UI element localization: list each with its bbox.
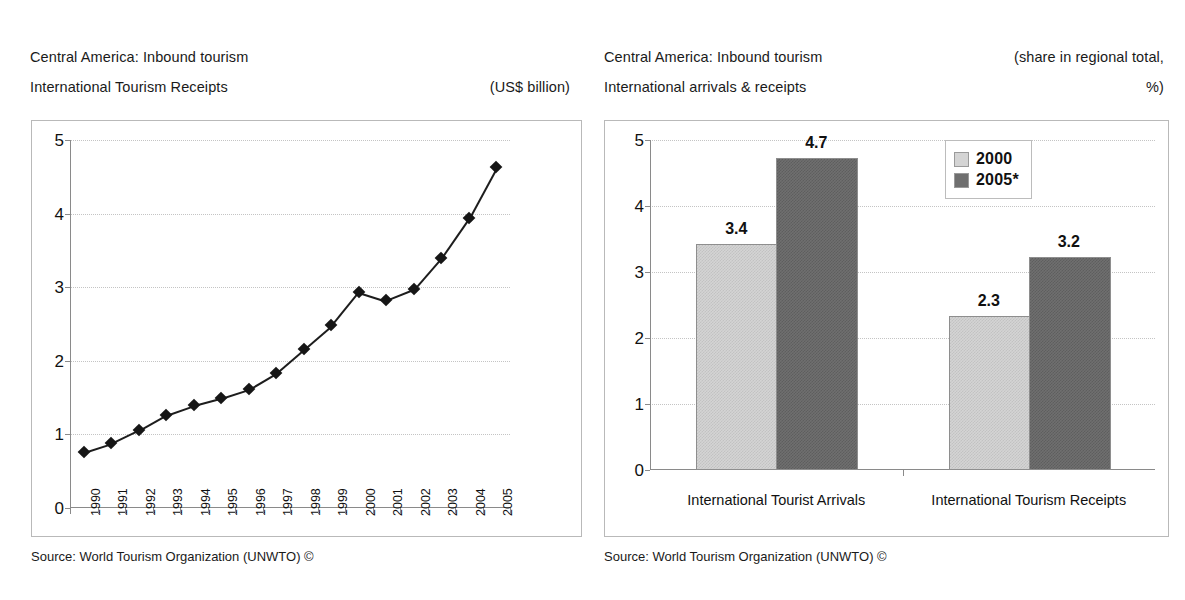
data-point-marker bbox=[380, 294, 393, 307]
bar-value-label: 4.7 bbox=[805, 134, 827, 152]
x-axis-year-label: 1998 bbox=[309, 488, 323, 516]
y-axis-label: 1 bbox=[55, 426, 64, 443]
data-point-marker bbox=[77, 446, 90, 459]
bar-value-label: 2.3 bbox=[978, 292, 1000, 310]
data-point-marker bbox=[490, 161, 503, 174]
left-chart-source: Source: World Tourism Organization (UNWT… bbox=[31, 549, 314, 564]
x-axis-year-label: 2005 bbox=[501, 488, 515, 516]
line-segment bbox=[441, 218, 470, 259]
y-axis-label: 1 bbox=[635, 396, 644, 413]
bar-2005 bbox=[1029, 257, 1111, 470]
x-axis-tick bbox=[903, 470, 904, 476]
bar-value-label: 3.4 bbox=[725, 220, 747, 238]
x-axis-tick bbox=[70, 508, 71, 514]
x-axis-tick bbox=[510, 508, 511, 514]
left-chart-title-line1: Central America: Inbound tourism bbox=[30, 42, 248, 72]
x-axis-tick bbox=[318, 508, 319, 514]
gridline bbox=[650, 206, 1155, 207]
x-axis-category-label: International Tourism Receipts bbox=[931, 492, 1126, 508]
x-axis-tick bbox=[455, 508, 456, 514]
y-axis-label: 5 bbox=[635, 132, 644, 149]
bar-value-label: 3.2 bbox=[1058, 233, 1080, 251]
y-axis-label: 0 bbox=[55, 500, 64, 517]
x-axis-tick bbox=[153, 508, 154, 514]
left-chart-title-block: Central America: Inbound tourism Interna… bbox=[30, 42, 570, 102]
legend-swatch-2005-icon bbox=[954, 173, 969, 188]
data-point-marker bbox=[105, 437, 118, 450]
right-title-row-1: Central America: Inbound tourism (share … bbox=[604, 42, 1164, 72]
y-axis-label: 3 bbox=[635, 264, 644, 281]
bar-chart-legend: 2000 2005* bbox=[945, 140, 1032, 199]
x-axis-year-label: 1993 bbox=[171, 488, 185, 516]
x-axis-year-label: 2002 bbox=[419, 488, 433, 516]
left-title-row-1: Central America: Inbound tourism bbox=[30, 42, 570, 72]
x-axis-year-label: 2004 bbox=[474, 488, 488, 516]
left-chart-panel: Central America: Inbound tourism Interna… bbox=[0, 0, 592, 600]
right-chart-unit-label-line2: %) bbox=[1146, 72, 1164, 102]
bar-2000 bbox=[949, 316, 1031, 470]
x-axis-tick bbox=[125, 508, 126, 514]
legend-item-2000: 2000 bbox=[954, 150, 1019, 168]
right-chart-title-line1: Central America: Inbound tourism bbox=[604, 42, 822, 72]
left-plot-area: 0123451990199119921993199419951996199719… bbox=[70, 140, 510, 508]
data-point-marker bbox=[242, 382, 255, 395]
left-chart-unit-label: (US$ billion) bbox=[490, 72, 570, 102]
y-axis-label: 5 bbox=[55, 132, 64, 149]
right-plot-area: 0123453.44.7International Tourist Arriva… bbox=[650, 140, 1155, 470]
line-segment bbox=[331, 292, 360, 327]
data-point-marker bbox=[215, 391, 228, 404]
right-chart-unit-label-line1: (share in regional total, bbox=[1014, 42, 1164, 72]
x-axis-year-label: 1999 bbox=[336, 488, 350, 516]
x-axis-tick bbox=[290, 508, 291, 514]
right-chart-frame: 0123453.44.7International Tourist Arriva… bbox=[604, 120, 1169, 537]
data-point-marker bbox=[187, 399, 200, 412]
left-chart-frame: 0123451990199119921993199419951996199719… bbox=[31, 120, 582, 537]
x-axis-tick bbox=[373, 508, 374, 514]
gridline bbox=[70, 140, 510, 141]
x-axis-year-label: 1991 bbox=[116, 488, 130, 516]
x-axis-tick bbox=[208, 508, 209, 514]
bar-2005 bbox=[776, 158, 858, 470]
x-axis-tick bbox=[180, 508, 181, 514]
x-axis-tick bbox=[400, 508, 401, 514]
x-axis-tick bbox=[235, 508, 236, 514]
y-axis-label: 2 bbox=[635, 330, 644, 347]
left-chart-title-line2: International Tourism Receipts bbox=[30, 72, 228, 102]
right-title-row-2: International arrivals & receipts %) bbox=[604, 72, 1164, 102]
x-axis-tick bbox=[483, 508, 484, 514]
y-axis-line bbox=[650, 140, 651, 470]
x-axis-year-label: 1995 bbox=[226, 488, 240, 516]
legend-label-2005: 2005* bbox=[976, 171, 1019, 189]
y-axis-line bbox=[70, 140, 71, 508]
y-axis-tick bbox=[645, 470, 650, 471]
y-axis-label: 4 bbox=[635, 198, 644, 215]
x-axis-tick bbox=[345, 508, 346, 514]
y-axis-label: 0 bbox=[635, 462, 644, 479]
right-chart-source: Source: World Tourism Organization (UNWT… bbox=[604, 549, 887, 564]
right-chart-panel: Central America: Inbound tourism (share … bbox=[592, 0, 1185, 600]
x-axis-year-label: 1992 bbox=[144, 488, 158, 516]
gridline bbox=[650, 140, 1155, 141]
x-axis-year-label: 1996 bbox=[254, 488, 268, 516]
x-axis-year-label: 1997 bbox=[281, 488, 295, 516]
x-axis-year-label: 2001 bbox=[391, 488, 405, 516]
left-title-row-2: International Tourism Receipts (US$ bill… bbox=[30, 72, 570, 102]
x-axis-tick bbox=[98, 508, 99, 514]
x-axis-tick bbox=[263, 508, 264, 514]
x-axis-year-label: 2003 bbox=[446, 488, 460, 516]
y-axis-label: 3 bbox=[55, 279, 64, 296]
legend-item-2005: 2005* bbox=[954, 171, 1019, 189]
x-axis-tick bbox=[428, 508, 429, 514]
gridline bbox=[70, 434, 510, 435]
legend-swatch-2000-icon bbox=[954, 152, 969, 167]
gridline bbox=[70, 287, 510, 288]
line-segment bbox=[469, 167, 498, 219]
right-chart-title-line2: International arrivals & receipts bbox=[604, 72, 806, 102]
gridline bbox=[70, 214, 510, 215]
legend-label-2000: 2000 bbox=[976, 150, 1012, 168]
y-axis-label: 4 bbox=[55, 205, 64, 222]
x-axis-year-label: 1990 bbox=[89, 488, 103, 516]
bar-2000 bbox=[696, 244, 778, 470]
y-axis-label: 2 bbox=[55, 352, 64, 369]
x-axis-year-label: 2000 bbox=[364, 488, 378, 516]
